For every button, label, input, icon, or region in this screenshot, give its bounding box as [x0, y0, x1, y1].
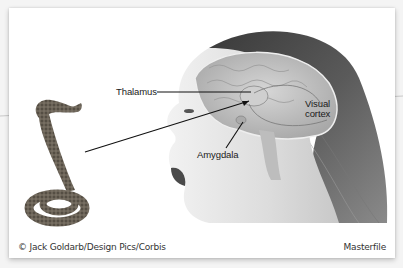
photo-credit-right: Masterfile: [344, 243, 386, 252]
snake: [29, 100, 85, 222]
photo-credit-left: © Jack Goldarb/Design Pics/Corbis: [18, 243, 166, 252]
figure-illustration: [9, 8, 395, 258]
label-thalamus: Thalamus: [116, 87, 157, 97]
label-visual-cortex-line2: cortex: [305, 109, 330, 119]
figure-card: Thalamus Visual cortex Amygdala © Jack G…: [9, 8, 395, 258]
label-amygdala: Amygdala: [197, 150, 238, 160]
